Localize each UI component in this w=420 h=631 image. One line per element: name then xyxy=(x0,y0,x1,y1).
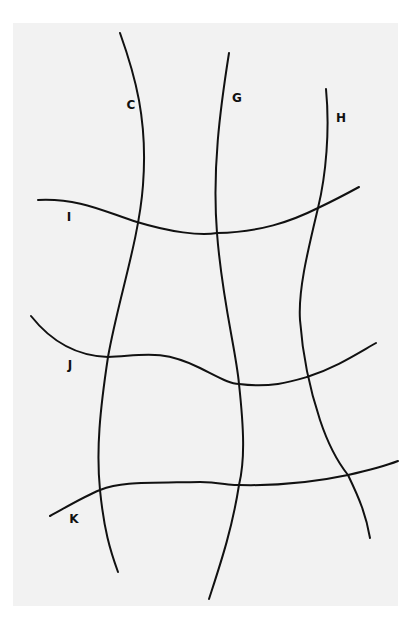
curve-j xyxy=(31,316,376,385)
label-i: I xyxy=(67,210,71,224)
curve-c xyxy=(98,33,144,572)
label-g: G xyxy=(232,91,242,105)
label-h: H xyxy=(336,111,346,125)
curve-h xyxy=(300,89,370,538)
label-j: J xyxy=(68,358,72,372)
curve-i xyxy=(38,187,359,234)
curve-grid-diagram xyxy=(0,0,420,631)
label-c: C xyxy=(127,98,136,112)
curve-g xyxy=(209,53,243,599)
label-k: K xyxy=(69,512,78,526)
